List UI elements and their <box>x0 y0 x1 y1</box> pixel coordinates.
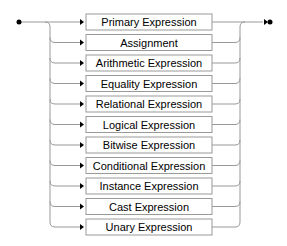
railroad-diagram: Primary ExpressionAssignmentArithmetic E… <box>0 0 287 246</box>
choice-label: Equality Expression <box>101 78 198 90</box>
choice-box: Logical Expression <box>86 117 212 133</box>
choice-label: Relational Expression <box>96 98 202 110</box>
choice-box: Bitwise Expression <box>86 137 212 153</box>
choice-box: Relational Expression <box>86 96 212 112</box>
end-marker-icon <box>264 19 273 25</box>
choice-box: Arithmetic Expression <box>86 55 212 71</box>
choice-boxes: Primary ExpressionAssignmentArithmetic E… <box>80 14 212 235</box>
arrow-right-icon <box>80 81 84 87</box>
choice-label: Bitwise Expression <box>103 139 195 151</box>
choice-box: Assignment <box>86 35 212 51</box>
choice-label: Assignment <box>120 37 177 49</box>
arrow-right-icon <box>80 142 84 148</box>
choice-box: Equality Expression <box>86 76 212 92</box>
choice-box: Conditional Expression <box>86 158 212 174</box>
choice-label: Unary Expression <box>106 221 193 233</box>
choice-label: Instance Expression <box>99 180 198 192</box>
choice-box: Unary Expression <box>86 219 212 235</box>
arrow-right-icon <box>80 224 84 230</box>
arrow-right-icon <box>80 122 84 128</box>
choice-label: Arithmetic Expression <box>96 57 202 69</box>
arrow-right-icon <box>80 183 84 189</box>
start-marker-icon <box>17 20 22 25</box>
arrow-right-icon <box>80 204 84 210</box>
arrow-right-icon <box>80 163 84 169</box>
choice-box: Instance Expression <box>86 178 212 194</box>
arrow-right-icon <box>80 60 84 66</box>
choice-label: Cast Expression <box>109 201 189 213</box>
choice-label: Primary Expression <box>101 16 196 28</box>
choice-box: Cast Expression <box>86 199 212 215</box>
arrow-right-icon <box>80 101 84 107</box>
arrow-right-icon <box>80 40 84 46</box>
choice-label: Conditional Expression <box>93 160 206 172</box>
choice-box: Primary Expression <box>86 14 212 30</box>
choice-label: Logical Expression <box>103 119 195 131</box>
arrow-right-icon <box>80 19 84 25</box>
